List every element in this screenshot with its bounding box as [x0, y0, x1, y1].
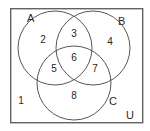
region-label-b-only: 4 [107, 36, 113, 47]
set-label-c: C [109, 95, 117, 107]
region-label-a-b-c: 6 [71, 52, 77, 63]
region-label-b-c: 7 [92, 63, 98, 74]
region-label-a-c: 5 [51, 63, 57, 74]
universe-label: U [126, 109, 134, 121]
region-label-c-only: 8 [71, 90, 77, 101]
set-label-b: B [118, 15, 125, 27]
region-label-a-only: 2 [40, 34, 46, 45]
region-label-a-b: 3 [71, 28, 77, 39]
region-label-outside: 1 [18, 95, 24, 106]
set-label-a: A [27, 12, 35, 24]
venn-diagram-canvas: A B C U 1 2 3 4 5 6 7 8 [0, 0, 150, 131]
venn-diagram-svg: A B C U 1 2 3 4 5 6 7 8 [0, 0, 150, 131]
